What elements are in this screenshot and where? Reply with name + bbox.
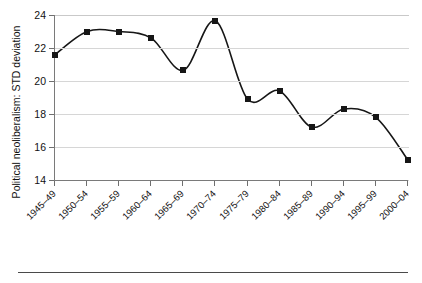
gridline xyxy=(55,147,409,148)
x-axis-tick-mark xyxy=(407,181,408,186)
x-axis-tick-mark xyxy=(247,181,248,186)
x-axis-tick-label: 1970–74 xyxy=(184,188,218,222)
gridline xyxy=(55,15,409,16)
y-axis-tick-label: 18 xyxy=(18,109,46,120)
x-axis-tick-mark xyxy=(375,181,376,186)
data-point-marker xyxy=(52,52,58,58)
plot-area xyxy=(54,15,408,180)
x-axis-tick-label: 1990–94 xyxy=(313,188,347,222)
data-point-marker xyxy=(405,157,411,163)
x-axis-tick-label: 1955–59 xyxy=(88,188,122,222)
x-axis-tick-mark xyxy=(118,181,119,186)
x-axis-tick-mark xyxy=(86,181,87,186)
x-axis-tick-label: 1985–89 xyxy=(281,188,315,222)
x-axis-tick-mark xyxy=(54,181,55,186)
data-point-marker xyxy=(212,18,218,24)
data-point-marker xyxy=(245,96,251,102)
data-point-marker xyxy=(180,67,186,73)
footer-rule xyxy=(18,272,408,273)
data-point-marker xyxy=(116,29,122,35)
x-axis-tick-label: 1995–99 xyxy=(345,188,379,222)
series-path xyxy=(55,20,408,160)
x-axis-tick-mark xyxy=(343,181,344,186)
y-axis-tick-label: 20 xyxy=(18,76,46,87)
data-point-marker xyxy=(148,35,154,41)
data-point-marker xyxy=(277,88,283,94)
x-axis-line xyxy=(54,180,408,181)
data-point-marker xyxy=(84,29,90,35)
x-axis-tick-label: 1975–79 xyxy=(217,188,251,222)
data-point-marker xyxy=(309,124,315,130)
x-axis-tick-mark xyxy=(311,181,312,186)
chart-figure: Political neoliberalism: STD deviation 1… xyxy=(0,0,422,283)
x-axis-tick-label: 2000–04 xyxy=(377,188,411,222)
data-point-marker xyxy=(373,114,379,120)
data-point-marker xyxy=(341,106,347,112)
x-axis-tick-mark xyxy=(279,181,280,186)
x-axis-tick-label: 1980–84 xyxy=(249,188,283,222)
y-axis-tick-label: 22 xyxy=(18,43,46,54)
x-axis-tick-mark xyxy=(150,181,151,186)
y-axis-tick-label: 16 xyxy=(18,142,46,153)
x-axis-tick-label: 1960–64 xyxy=(120,188,154,222)
x-axis-tick-label: 1945–49 xyxy=(24,188,58,222)
gridline xyxy=(55,48,409,49)
y-axis-tick-label: 14 xyxy=(18,175,46,186)
x-axis-tick-mark xyxy=(182,181,183,186)
gridline xyxy=(55,81,409,82)
series-line-political-neoliberalism xyxy=(55,15,409,180)
gridline xyxy=(55,114,409,115)
x-axis-tick-label: 1965–69 xyxy=(152,188,186,222)
y-axis-tick-label: 24 xyxy=(18,10,46,21)
x-axis-tick-mark xyxy=(214,181,215,186)
x-axis-tick-label: 1950–54 xyxy=(56,188,90,222)
